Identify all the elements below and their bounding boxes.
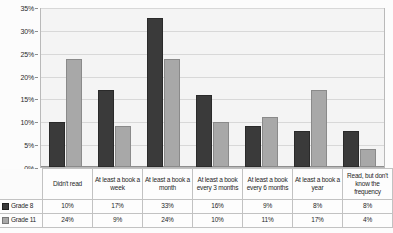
y-tick-label: 15% bbox=[21, 96, 34, 103]
bar bbox=[115, 126, 131, 167]
table-value-cell: 33% bbox=[143, 200, 193, 214]
category-header-cell: At least a book every 6 months bbox=[243, 169, 293, 200]
y-tick-mark bbox=[35, 54, 38, 55]
table-value-cell: 17% bbox=[93, 200, 143, 214]
bar bbox=[196, 95, 212, 167]
table-value-cell: 4% bbox=[343, 214, 393, 228]
bar bbox=[245, 126, 261, 167]
table-value-cell: 10% bbox=[193, 214, 243, 228]
y-axis: 0%5%10%15%20%25%30%35% bbox=[0, 8, 38, 168]
category-header-cell: At least a book a week bbox=[93, 169, 143, 200]
category-header-cell: At least a book every 3 months bbox=[193, 169, 243, 200]
table-value-cell: 8% bbox=[343, 200, 393, 214]
y-tick-label: 30% bbox=[21, 27, 34, 34]
y-tick-label: 25% bbox=[21, 50, 34, 57]
table-value-cell: 10% bbox=[43, 200, 93, 214]
bar-group bbox=[90, 9, 139, 167]
bar-group bbox=[188, 9, 237, 167]
y-tick-label: 20% bbox=[21, 73, 34, 80]
table-row: Grade 810%17%33%16%9%8%8% bbox=[0, 200, 393, 214]
bar-group bbox=[335, 9, 384, 167]
grouped-bar-chart: 0%5%10%15%20%25%30%35% Didn't readAt lea… bbox=[0, 0, 393, 233]
legend-swatch-icon bbox=[2, 217, 9, 224]
table-corner-cell bbox=[0, 169, 43, 200]
y-tick-label: 5% bbox=[24, 142, 34, 149]
y-tick-mark bbox=[35, 99, 38, 100]
y-tick-label: 35% bbox=[21, 5, 34, 12]
table-row: Grade 1124%9%24%10%11%17%4% bbox=[0, 214, 393, 228]
bar-group bbox=[139, 9, 188, 167]
table-value-cell: 24% bbox=[143, 214, 193, 228]
category-header-cell: Didn't read bbox=[43, 169, 93, 200]
y-tick-mark bbox=[35, 77, 38, 78]
bar bbox=[311, 90, 327, 167]
legend-swatch-icon bbox=[2, 203, 9, 210]
bar bbox=[262, 117, 278, 167]
category-header-cell: At least a book a year bbox=[293, 169, 343, 200]
category-header-cell: At least a book a month bbox=[143, 169, 193, 200]
bar bbox=[164, 59, 180, 167]
legend-label: Grade 11 bbox=[11, 217, 36, 224]
table-value-cell: 24% bbox=[43, 214, 93, 228]
table-value-cell: 9% bbox=[93, 214, 143, 228]
bar bbox=[360, 149, 376, 167]
bar bbox=[294, 131, 310, 167]
bar bbox=[66, 59, 82, 167]
bars-layer bbox=[41, 9, 384, 167]
table-row-categories: Didn't readAt least a book a weekAt leas… bbox=[0, 169, 393, 200]
legend-label: Grade 8 bbox=[11, 203, 33, 210]
table-value-cell: 17% bbox=[293, 214, 343, 228]
bar bbox=[343, 131, 359, 167]
y-tick-label: 10% bbox=[21, 119, 34, 126]
data-table: Didn't readAt least a book a weekAt leas… bbox=[0, 168, 393, 228]
bar-group bbox=[41, 9, 90, 167]
table-value-cell: 16% bbox=[193, 200, 243, 214]
legend-item-grade-11: Grade 11 bbox=[0, 214, 43, 228]
category-header-cell: Read, but don't know the frequency bbox=[343, 169, 393, 200]
bar bbox=[98, 90, 114, 167]
bar-group bbox=[286, 9, 335, 167]
bar bbox=[213, 122, 229, 167]
table-value-cell: 8% bbox=[293, 200, 343, 214]
legend-item-grade-8: Grade 8 bbox=[0, 200, 43, 214]
bar bbox=[49, 122, 65, 167]
y-tick-mark bbox=[35, 31, 38, 32]
y-tick-mark bbox=[35, 8, 38, 9]
data-table-body: Didn't readAt least a book a weekAt leas… bbox=[0, 169, 393, 228]
y-tick-mark bbox=[35, 145, 38, 146]
table-value-cell: 11% bbox=[243, 214, 293, 228]
bar-group bbox=[237, 9, 286, 167]
y-tick-mark bbox=[35, 122, 38, 123]
table-value-cell: 9% bbox=[243, 200, 293, 214]
bar bbox=[147, 18, 163, 167]
